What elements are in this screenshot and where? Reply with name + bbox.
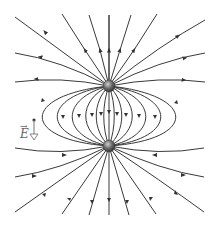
e-vector-indicator [30,118,38,140]
top-charge [103,80,115,92]
dipole-field-diagram [0,0,218,230]
field-lines-bottom [15,146,204,215]
bottom-charge [103,140,115,152]
field-vector-label: → E [20,127,29,141]
field-lines-top [15,14,205,86]
vector-arrow-glyph: → [20,121,28,131]
